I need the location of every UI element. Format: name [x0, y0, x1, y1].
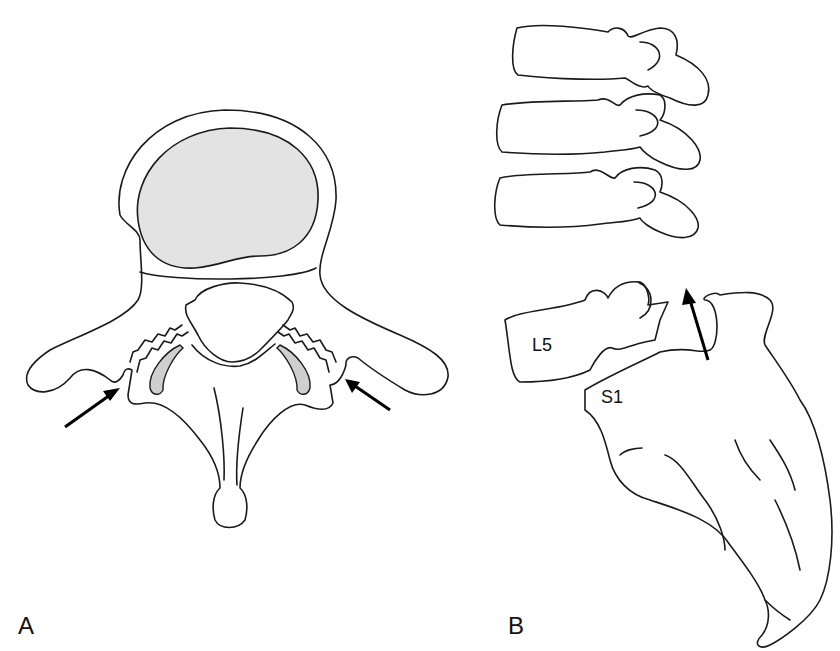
panel-b-label: B [508, 612, 524, 640]
sacral-line-3 [735, 440, 760, 480]
right-arrowhead-icon [345, 379, 360, 393]
figure: A B L5 S1 [0, 0, 840, 651]
panel-a-diagram [0, 0, 480, 651]
left-arrow [65, 395, 110, 427]
vertebra-label-s1: S1 [601, 387, 623, 408]
upward-arrow [690, 300, 708, 360]
sacral-line-4 [770, 440, 795, 490]
vertebra-l5 [505, 282, 668, 382]
l3-pedicle [636, 110, 658, 136]
upward-arrowhead-icon [682, 288, 696, 305]
vertebra-label-l5: L5 [532, 335, 552, 356]
sacral-line-2 [665, 455, 725, 550]
l2-pedicle [640, 42, 660, 70]
l4-pedicle [634, 182, 655, 208]
l5-pedicle [638, 282, 651, 318]
panel-a-label: A [18, 612, 34, 640]
vertebra-l2 [513, 25, 709, 105]
vertebra-l4 [495, 168, 699, 238]
right-arrow [355, 386, 390, 410]
sacral-line-5 [775, 500, 800, 570]
sacral-line-1 [620, 448, 642, 455]
sacrum [585, 293, 832, 647]
vertebra-l3 [497, 94, 700, 169]
coccyx-line [765, 600, 790, 620]
